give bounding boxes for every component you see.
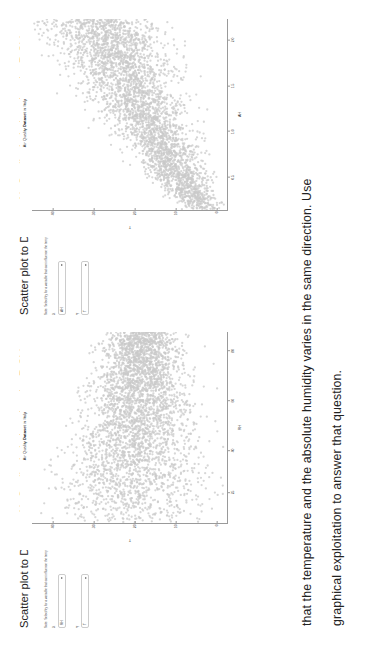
y-variable-value: T: [83, 310, 87, 312]
y-tick: 10: [174, 525, 178, 532]
question-line-2: graphical exploitation to answer that qu…: [322, 20, 352, 626]
chevron-down-icon: [85, 264, 87, 266]
y-tick: 0: [215, 525, 219, 532]
x-variable-value: AH: [60, 308, 64, 312]
control-x: X AH: [52, 247, 66, 315]
plot-title: Air Quality Dataset in Italy: [22, 322, 27, 550]
plot-axes: 25 40 60 80 0 10 20 30 40 RH T: [32, 332, 228, 524]
control-y-label: Y: [76, 247, 80, 315]
shiny-panel-ah: Scatter plot to Dataset Air Quality in I…: [18, 8, 250, 315]
x-tick: 60: [231, 399, 235, 403]
y-tick: 30: [92, 212, 96, 219]
y-tick: 0: [215, 212, 219, 219]
sidebar-controls: X AH Y T: [52, 247, 99, 315]
rotated-screenshot-stage: that the temperature and the absolute hu…: [0, 0, 384, 646]
y-variable-select[interactable]: T: [81, 574, 89, 628]
chevron-down-icon: [61, 577, 63, 579]
control-x: X RH: [52, 560, 66, 628]
control-y-label: Y: [76, 560, 80, 628]
y-tick: 40: [51, 525, 55, 532]
y-axis-label: T: [128, 225, 130, 229]
question-text: that the temperature and the absolute hu…: [292, 20, 352, 626]
x-tick: 2.0: [231, 38, 235, 43]
scatter-plot-ah: Air Quality Dataset in Italy 0.5 1.0 1.5…: [20, 9, 248, 237]
y-tick: 40: [51, 212, 55, 219]
chevron-down-icon: [85, 577, 87, 579]
x-tick: 40: [231, 449, 235, 453]
plot-axes: 0.5 1.0 1.5 2.0 0 10 20 30 40 AH T: [32, 19, 228, 211]
x-variable-select[interactable]: AH: [58, 261, 66, 315]
control-y: Y T: [76, 247, 90, 315]
x-variable-select[interactable]: RH: [58, 574, 66, 628]
plot-title: Air Quality Dataset in Italy: [22, 9, 27, 237]
y-tick: 20: [133, 212, 137, 219]
x-tick: 1.0: [231, 129, 235, 134]
x-tick: 80: [231, 349, 235, 353]
x-variable-value: RH: [60, 620, 64, 625]
y-axis-label: T: [128, 538, 130, 542]
y-tick: 10: [174, 212, 178, 219]
x-axis-label: AH: [238, 112, 242, 117]
control-x-label: X: [52, 560, 56, 628]
x-tick: 1.5: [231, 84, 235, 89]
y-tick: 30: [92, 525, 96, 532]
shiny-panel-rh: Scatter plot to Dataset Air Quality in I…: [18, 321, 250, 628]
y-tick: 20: [133, 525, 137, 532]
x-axis-label: RH: [238, 425, 242, 430]
question-line-1: that the temperature and the absolute hu…: [292, 20, 322, 626]
y-variable-value: T: [83, 623, 87, 625]
x-tick: 25: [231, 491, 235, 495]
chevron-down-icon: [61, 264, 63, 266]
scatter-plot-rh: Air Quality Dataset in Italy 25 40 60 80…: [20, 322, 248, 550]
scatter-points-ah: [32, 19, 227, 210]
x-tick: 0.5: [231, 175, 235, 180]
control-y: Y T: [76, 560, 90, 628]
sidebar-controls: X RH Y T: [52, 560, 99, 628]
scatter-points-rh: [32, 332, 227, 523]
y-variable-select[interactable]: T: [81, 261, 89, 315]
control-x-label: X: [52, 247, 56, 315]
